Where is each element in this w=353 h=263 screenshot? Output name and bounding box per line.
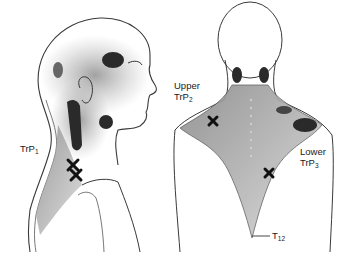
pain-zone-temple [102,52,124,68]
collar-line [78,192,104,252]
label-upper-trp2: Upper TrP2 [174,80,200,105]
pain-zone-occipital-left [232,67,242,83]
pain-zone-shoulder-upper [276,106,292,114]
pain-zone-acromion [293,118,317,132]
trapezius-diagram [0,0,353,263]
label-trp1: TrP1 [20,143,39,157]
label-lower-trp3: Lower TrP3 [300,146,326,171]
posterior-view [174,2,333,252]
pain-zone-jaw [99,115,113,129]
shoulder-line [82,179,140,252]
pain-zone-occipital-right [259,67,269,83]
lateral-view [29,18,157,252]
label-t12: T12 [272,230,285,244]
head-back [218,2,282,78]
pain-zone-occiput [53,62,63,78]
